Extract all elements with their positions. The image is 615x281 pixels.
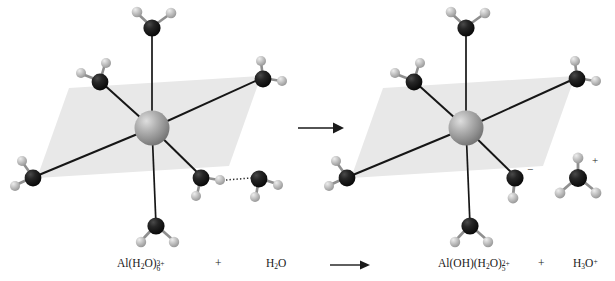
left-water-top: [132, 7, 177, 37]
right-water-lower-left: [324, 156, 355, 191]
oxygen-atom: [92, 74, 109, 91]
hydrogen-atom: [591, 76, 601, 86]
oxygen-atom: [569, 71, 586, 88]
hydrogen-atom: [250, 192, 260, 202]
left-water-lower-left: [10, 156, 41, 191]
equation-arrow: [330, 261, 370, 270]
equation-plus-right: +: [538, 258, 545, 270]
left-water-bottom: [136, 217, 179, 247]
hydrogen-atom: [508, 193, 519, 204]
hydrogen-atom: [483, 237, 493, 247]
hydroxide-charge-label: −: [527, 164, 533, 175]
hydrogen-atom: [573, 153, 584, 164]
hydrogen-atom: [169, 237, 179, 247]
hydrogen-atom: [10, 181, 20, 191]
hydrogen-atom: [480, 8, 491, 19]
oxygen-atom: [569, 169, 587, 187]
oxygen-atom: [406, 74, 423, 91]
hydrogen-atom: [591, 188, 602, 199]
left-water-lower-right: [191, 170, 225, 201]
hydronium-charge-label: +: [592, 155, 598, 166]
left-water-upper-right: [255, 56, 287, 87]
hydrogen-atom: [76, 68, 86, 78]
product-hydronium-formula: H3O+: [573, 258, 598, 270]
hydrogen-atom: [324, 181, 334, 191]
hydrogen-bond-dotted: [226, 178, 251, 180]
oxygen-atom: [255, 71, 272, 88]
molecular-scene: [0, 0, 615, 281]
hydrogen-atom: [132, 7, 143, 18]
reactant-complex-formula: Al(H2O)63+: [117, 258, 164, 270]
hydroxide-ligand: [506, 169, 523, 203]
left-model-group: [10, 7, 287, 248]
right-water-top: [446, 7, 491, 37]
free-water-molecule: [250, 171, 283, 202]
reactant-water-formula: H2O: [266, 258, 286, 270]
oxygen-atom: [251, 171, 268, 188]
right-model-group: [324, 7, 601, 248]
hydrogen-atom: [450, 237, 460, 247]
oxygen-atom: [193, 170, 210, 187]
oxygen-atom: [147, 217, 164, 234]
equation-plus-left: +: [215, 258, 222, 270]
hydrogen-atom: [273, 180, 283, 190]
hydrogen-atom: [277, 76, 287, 86]
right-water-upper-right: [569, 56, 601, 87]
left-water-upper-left: [76, 58, 111, 90]
product-complex-formula: Al(OH)(H2O)52+: [438, 258, 509, 270]
hydrogen-atom: [390, 68, 400, 78]
right-water-bottom: [450, 217, 493, 247]
hydrogen-atom: [256, 56, 266, 66]
oxygen-atom: [457, 19, 474, 36]
hydrogen-atom: [136, 237, 146, 247]
oxygen-atom: [461, 217, 478, 234]
main-reaction-arrow: [298, 123, 344, 134]
aluminum-atom: [135, 111, 170, 146]
oxygen-atom: [506, 169, 523, 186]
hydrogen-atom: [570, 56, 580, 66]
hydrogen-atom: [191, 191, 201, 201]
oxygen-atom: [339, 170, 356, 187]
figure-canvas: − + Al(H2O)63+ + H2O Al(OH)(H2O)52+ + H3…: [0, 0, 615, 281]
hydrogen-atom: [555, 188, 566, 199]
hydrogen-atom: [331, 156, 341, 166]
hydrogen-atom: [215, 175, 225, 185]
hydrogen-atom: [415, 58, 425, 68]
oxygen-atom: [143, 19, 160, 36]
oxygen-atom: [25, 170, 42, 187]
hydrogen-atom: [166, 8, 177, 19]
hydrogen-atom: [17, 156, 27, 166]
right-water-upper-left: [390, 58, 425, 90]
aluminum-atom: [449, 111, 484, 146]
hydrogen-atom: [101, 58, 111, 68]
hydrogen-atom: [446, 7, 457, 18]
